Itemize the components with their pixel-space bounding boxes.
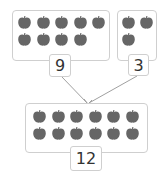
apple-icon: [121, 32, 136, 47]
apple-icon: [54, 32, 69, 47]
apple-icon: [139, 15, 154, 30]
apple-icon: [69, 109, 84, 124]
apple-icon: [125, 109, 140, 124]
apple-icon: [17, 32, 32, 47]
apple-icon: [125, 126, 140, 141]
apple-icon: [51, 109, 66, 124]
apple-icon: [36, 32, 51, 47]
part-label-right: 3: [128, 54, 149, 76]
apple-icon: [51, 126, 66, 141]
apple-icon: [32, 109, 47, 124]
apple-icon: [106, 109, 121, 124]
apple-icon: [73, 15, 88, 30]
apple-icon: [88, 126, 103, 141]
apple-icon: [54, 15, 69, 30]
apple-icon: [17, 15, 32, 30]
apple-icon: [69, 126, 84, 141]
apple-icon: [36, 15, 51, 30]
apple-icon: [32, 126, 47, 141]
apple-icon: [73, 32, 88, 47]
apple-icon: [91, 15, 106, 30]
part-label-left: 9: [49, 54, 71, 77]
apple-icon: [88, 109, 103, 124]
whole-label: 12: [70, 146, 102, 171]
apple-icon: [121, 15, 136, 30]
apple-icon: [106, 126, 121, 141]
